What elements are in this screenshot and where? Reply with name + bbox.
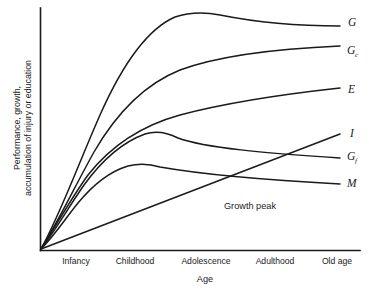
x-tick-label-old-age: Old age	[322, 256, 352, 266]
annotation-growth-peak: Growth peak	[224, 201, 276, 211]
x-tick-label-adulthood: Adulthood	[256, 256, 295, 266]
curve-label-e: E	[347, 83, 355, 95]
curve-label-i: I	[349, 127, 355, 139]
curve-label-gc-subscript: c	[355, 51, 359, 59]
x-tick-label-childhood: Childhood	[116, 256, 155, 266]
x-tick-label-infancy: Infancy	[62, 256, 90, 266]
curve-i	[41, 134, 340, 249]
chart-figure: G G c E I G f M Growth peak Infancy Chil…	[0, 0, 369, 290]
y-axis-title-line2: accumulation of injury or education	[23, 60, 33, 196]
curve-label-m: M	[346, 177, 358, 189]
curve-label-gf-subscript: f	[355, 157, 358, 165]
curve-label-g: G	[348, 16, 357, 28]
x-axis-title: Age	[197, 274, 213, 284]
x-tick-label-adolescence: Adolescence	[181, 256, 230, 266]
chart-plot-area: G G c E I G f M Growth peak Infancy Chil…	[0, 0, 369, 290]
y-axis-title-line1: Performance, growth,	[12, 86, 22, 170]
